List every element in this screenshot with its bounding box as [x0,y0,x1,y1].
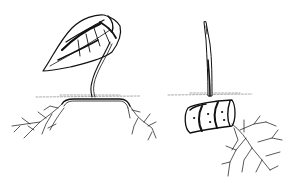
botanical-illustration [0,0,296,192]
roots-right [128,106,156,140]
roots-left [12,104,64,138]
leaf-cutting [12,15,156,140]
shoot-icon [204,22,212,96]
leaf-icon [43,15,121,71]
cane-cutting [168,22,282,176]
soil-line-left [36,95,140,97]
cane-segment [185,100,235,133]
rooted-stem [62,99,130,106]
